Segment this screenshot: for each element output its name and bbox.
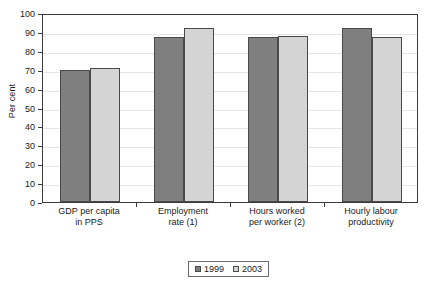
legend-item-label: 1999 (204, 264, 224, 274)
legend-item-label: 2003 (242, 264, 262, 274)
bar-2003-4 (372, 37, 402, 202)
y-axis-tick-label: 10 (25, 179, 35, 189)
y-axis-tick-mark (38, 203, 42, 204)
y-axis-tick-label: 30 (25, 141, 35, 151)
x-axis-category-label: GDP per capita in PPS (42, 206, 136, 228)
y-axis-tick: 60 (0, 90, 42, 91)
bar-1999-2 (154, 37, 184, 202)
y-axis-tick-label: 70 (25, 66, 35, 76)
x-axis-category-label: Hours worked per worker (2) (230, 206, 324, 228)
y-axis-tick: 10 (0, 184, 42, 185)
y-axis-tick-label: 80 (25, 47, 35, 57)
y-axis-tick-label: 60 (25, 85, 35, 95)
legend-item-2003[interactable]: 2003 (233, 264, 262, 274)
bar-1999-3 (248, 37, 278, 202)
y-axis-tick: 90 (0, 33, 42, 34)
y-axis-tick-label: 40 (25, 122, 35, 132)
bar-1999-1 (60, 70, 90, 202)
y-axis-tick-label: 0 (30, 198, 35, 208)
y-axis-tick: 80 (0, 52, 42, 53)
y-axis-tick: 100 (0, 14, 42, 15)
legend: 19992003 (188, 261, 269, 277)
y-axis-tick-label: 100 (20, 9, 35, 19)
x-axis-category-label: Employment rate (1) (136, 206, 230, 228)
y-axis-tick: 40 (0, 127, 42, 128)
y-axis-tick: 50 (0, 109, 42, 110)
bar-chart: Per cent 0102030405060708090100 GDP per … (0, 0, 426, 287)
y-axis-tick: 0 (0, 203, 42, 204)
y-axis-tick: 20 (0, 165, 42, 166)
legend-item-1999[interactable]: 1999 (195, 264, 224, 274)
bar-2003-2 (184, 28, 214, 202)
y-axis-tick-label: 20 (25, 160, 35, 170)
legend-swatch-icon (233, 266, 239, 272)
y-axis-tick: 30 (0, 146, 42, 147)
bar-2003-3 (278, 36, 308, 202)
bar-1999-4 (342, 28, 372, 202)
x-axis-category-label: Hourly labour productivity (324, 206, 418, 228)
bars-layer (43, 15, 417, 202)
y-axis-tick: 70 (0, 71, 42, 72)
legend-swatch-icon (195, 266, 201, 272)
y-axis-tick-label: 50 (25, 104, 35, 114)
y-axis-tick-label: 90 (25, 28, 35, 38)
bar-2003-1 (90, 68, 120, 202)
plot-area (42, 14, 418, 203)
